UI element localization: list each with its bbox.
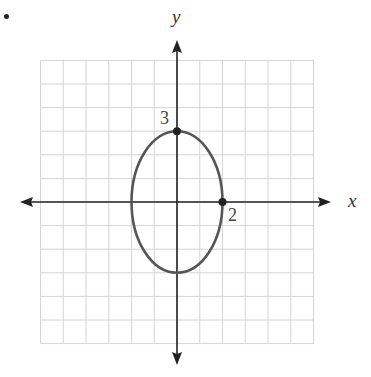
ellipse-graph [0, 0, 371, 377]
x-axis-label: x [348, 190, 356, 212]
y-axis-label: y [172, 6, 180, 28]
data-point [219, 198, 227, 206]
point-label-top: 3 [160, 108, 169, 129]
data-point [173, 127, 181, 135]
point-label-right: 2 [228, 205, 237, 226]
